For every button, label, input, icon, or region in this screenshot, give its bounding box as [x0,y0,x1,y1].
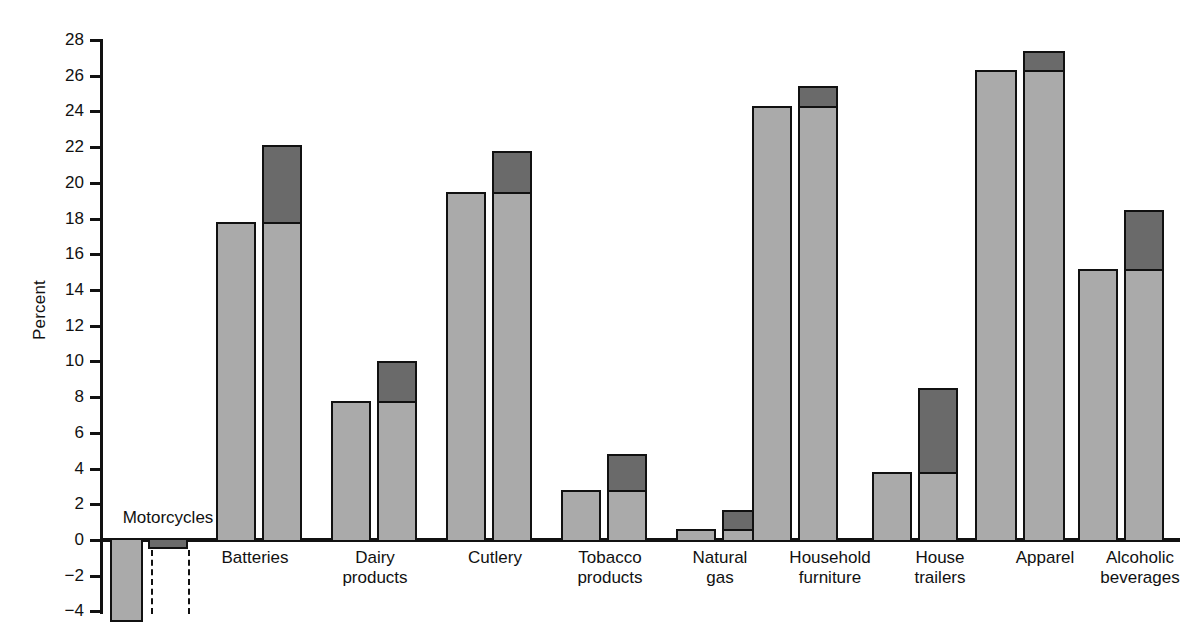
y-tick-label: 0 [14,531,84,548]
bar-stacked [918,388,958,542]
y-tick-mark [90,432,103,435]
category-label: Household furniture [760,548,900,588]
y-tick-mark [90,253,103,256]
bar-stacked [148,540,188,549]
bar-light [446,192,486,542]
y-tick-mark [90,75,103,78]
bar-dark-segment [609,456,645,492]
category-label: Cutlery [430,548,560,568]
bar-light [110,540,143,622]
bar-light [561,490,601,542]
bar-light [975,70,1017,542]
bar-light [1078,269,1118,542]
bar-dark-segment [920,390,956,474]
y-tick-label: 28 [14,31,84,48]
category-label: Tobacco products [545,548,675,588]
y-tick-label: −2 [14,567,84,584]
y-tick-mark [90,218,103,221]
bar-light [872,472,912,542]
dashed-leader-line [151,550,153,614]
y-tick-label: 12 [14,317,84,334]
y-tick-label: 6 [14,424,84,441]
y-tick-mark [90,468,103,471]
y-tick-mark [90,539,103,542]
y-tick-label: 26 [14,67,84,84]
y-tick-mark [90,110,103,113]
y-tick-label: 18 [14,210,84,227]
category-label: Batteries [190,548,320,568]
y-tick-label: 14 [14,281,84,298]
y-tick-mark [90,360,103,363]
bar-light [216,222,256,542]
y-tick-label: −4 [14,602,84,619]
bar-light [676,529,716,542]
y-tick-mark [90,182,103,185]
y-tick-mark [90,396,103,399]
bar-light [752,106,792,542]
category-label: House trailers [880,548,1000,588]
y-tick-mark [90,325,103,328]
y-tick-label: 16 [14,245,84,262]
y-tick-label: 8 [14,388,84,405]
bar-dark-segment [379,363,415,402]
y-tick-mark [90,610,103,613]
bar-dark-segment [800,88,836,108]
y-tick-label: 10 [14,352,84,369]
y-tick-mark [90,503,103,506]
bar-dark-segment [494,153,530,194]
bar-light [331,401,371,542]
bar-dark-segment [264,147,300,224]
category-label: Dairy products [310,548,440,588]
bar-stacked [607,454,647,542]
category-label: Motorcycles [108,508,228,528]
y-tick-label: 22 [14,138,84,155]
y-tick-mark [90,575,103,578]
y-tick-label: 24 [14,102,84,119]
y-tick-label: 2 [14,495,84,512]
y-tick-mark [90,39,103,42]
category-label: Alcoholic beverages [1075,548,1180,588]
bar-dark-segment [1126,212,1162,271]
y-tick-mark [90,146,103,149]
bar-stacked [492,151,532,542]
y-tick-label: 20 [14,174,84,191]
bar-stacked [1124,210,1164,542]
plot-area [103,40,1180,614]
bar-stacked [377,361,417,542]
bar-dark-segment [1025,53,1063,73]
bar-stacked [262,145,302,542]
y-tick-mark [90,289,103,292]
bar-stacked [798,86,838,542]
y-tick-label: 4 [14,460,84,477]
bar-stacked [1023,51,1065,542]
